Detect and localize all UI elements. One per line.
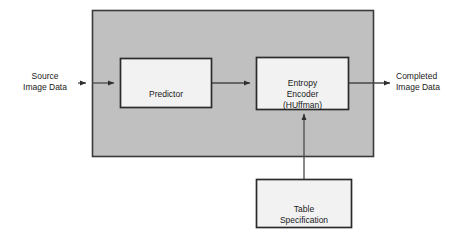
node-table-specification-box <box>257 180 352 228</box>
diagram-root: Predictor Entropy Encoder (HUffman) Tabl… <box>0 0 458 233</box>
node-predictor-box <box>121 59 212 108</box>
diagram-canvas <box>0 0 458 233</box>
source-image-data-label: Source Image Data <box>14 71 76 93</box>
node-entropy-encoder-box <box>257 58 349 110</box>
completed-image-data-label: Completed Image Data <box>396 71 458 93</box>
